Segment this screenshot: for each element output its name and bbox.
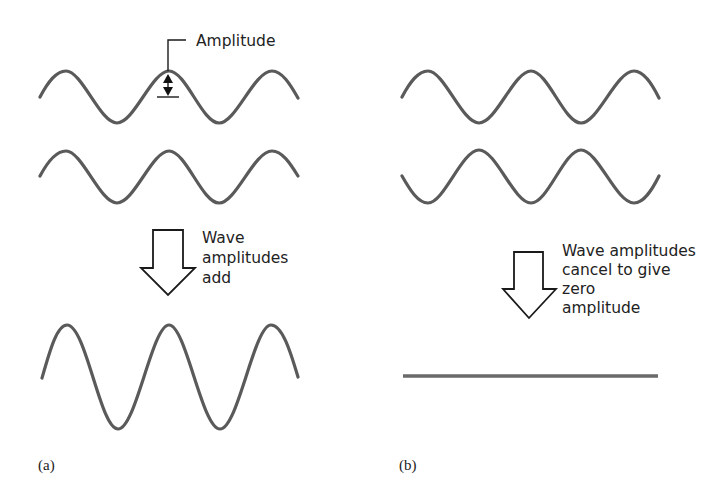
- wave-a-middle: [40, 151, 298, 203]
- wave-b-middle: [402, 150, 659, 203]
- panel-a-label: (a): [38, 457, 55, 474]
- caption-a-line-3: add: [202, 269, 231, 287]
- caption-b-line-2: cancel to give: [562, 261, 670, 279]
- interference-diagram: Amplitude Wave amplitudes add (a) Wave a…: [0, 0, 706, 498]
- amplitude-leader-line: [168, 40, 186, 71]
- caption-a-line-1: Wave: [202, 229, 245, 247]
- panel-b-label: (b): [399, 457, 417, 474]
- down-arrow-icon: [503, 252, 556, 318]
- arrow-down-icon: [163, 87, 173, 96]
- panel-a: Amplitude Wave amplitudes add (a): [38, 32, 298, 474]
- caption-b-line-3: zero: [562, 280, 595, 298]
- panel-b: Wave amplitudes cancel to give zero ampl…: [399, 71, 696, 474]
- caption-b-line-4: amplitude: [562, 299, 640, 317]
- amplitude-label: Amplitude: [196, 32, 275, 50]
- caption-a-line-2: amplitudes: [202, 249, 288, 267]
- caption-b-line-1: Wave amplitudes: [562, 242, 696, 260]
- wave-b-top: [402, 71, 659, 123]
- amplitude-annotation: Amplitude: [157, 32, 275, 97]
- down-arrow-icon: [141, 230, 195, 295]
- caption-b: Wave amplitudes cancel to give zero ampl…: [562, 242, 696, 317]
- arrow-up-icon: [163, 74, 173, 83]
- wave-a-resultant: [42, 325, 298, 429]
- caption-a: Wave amplitudes add: [202, 229, 288, 287]
